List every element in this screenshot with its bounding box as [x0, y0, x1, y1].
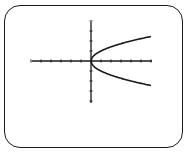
upper-branch-curve	[91, 37, 151, 61]
lower-branch-curve	[91, 61, 151, 85]
graph-plot	[0, 0, 189, 155]
